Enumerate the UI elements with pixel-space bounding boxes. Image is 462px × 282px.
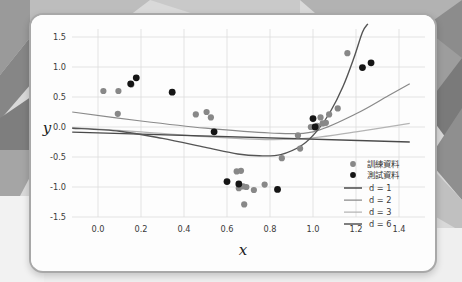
data-point <box>310 115 317 122</box>
data-point <box>203 109 209 115</box>
data-point <box>235 181 242 188</box>
data-point <box>224 178 231 185</box>
data-point <box>208 114 214 120</box>
data-point <box>335 105 341 111</box>
legend-label-d2: d = 2 <box>369 195 391 205</box>
y-tick-label: -1.0 <box>50 182 66 192</box>
data-point <box>295 132 301 138</box>
y-tick-label: -1.5 <box>50 212 66 222</box>
data-point <box>238 168 244 174</box>
data-point <box>274 186 281 193</box>
x-tick-label: 0.2 <box>134 224 147 234</box>
screenshot-stage: 1.5 1.0 0.5 0.0 -0.5 -1.0 -1.5 0.0 0.2 0… <box>0 0 462 282</box>
data-point <box>368 59 375 66</box>
data-point <box>344 50 350 56</box>
legend-label-d1: d = 1 <box>369 183 391 193</box>
chart-card: 1.5 1.0 0.5 0.0 -0.5 -1.0 -1.5 0.0 0.2 0… <box>29 13 437 273</box>
data-point <box>323 120 329 126</box>
y-tick-label: 1.5 <box>53 32 66 42</box>
y-tick-label: 0.5 <box>53 92 66 102</box>
x-tick-label: 1.2 <box>349 224 362 234</box>
data-point <box>317 114 323 120</box>
data-point <box>297 146 303 152</box>
data-point <box>100 88 106 94</box>
x-tick-label: 0.8 <box>263 224 276 234</box>
y-tick-label: 0.0 <box>53 122 66 132</box>
data-point <box>243 184 249 190</box>
y-tick-label: 1.0 <box>53 62 66 72</box>
legend-label-train: 訓練資料 <box>367 159 400 169</box>
data-point <box>169 89 176 96</box>
legend-label-d6: d = 6 <box>369 219 391 229</box>
data-point <box>279 155 285 161</box>
scatter-plot: 1.5 1.0 0.5 0.0 -0.5 -1.0 -1.5 0.0 0.2 0… <box>31 15 431 267</box>
data-point <box>326 111 332 117</box>
y-axis-title: y <box>42 119 52 137</box>
data-point <box>193 111 199 117</box>
data-point <box>312 124 319 131</box>
data-point <box>133 74 140 81</box>
data-point <box>115 111 121 117</box>
x-axis-title: x <box>239 241 248 259</box>
legend-label-test: 測試資料 <box>367 170 400 180</box>
legend-marker-train <box>350 161 356 167</box>
y-tick-label: -0.5 <box>50 152 66 162</box>
x-tick-label: 1.4 <box>392 224 405 234</box>
data-point <box>127 80 134 87</box>
x-tick-label: 0.6 <box>220 224 233 234</box>
data-point <box>359 64 366 71</box>
data-point <box>115 88 121 94</box>
legend-marker-test <box>350 172 356 178</box>
data-point <box>262 182 268 188</box>
data-point <box>241 201 247 207</box>
data-point <box>251 187 257 193</box>
data-point <box>211 128 218 135</box>
legend-label-d3: d = 3 <box>369 207 391 217</box>
x-tick-label: 0.0 <box>91 224 104 234</box>
x-tick-label: 1.0 <box>306 224 319 234</box>
x-tick-label: 0.4 <box>177 224 190 234</box>
